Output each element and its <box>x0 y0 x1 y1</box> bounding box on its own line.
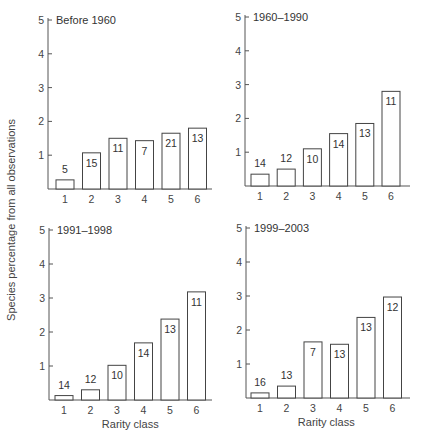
panel-title: 1960–1990 <box>253 11 308 23</box>
y-tick-label: 2 <box>236 324 242 336</box>
panel-title: Before 1960 <box>56 14 116 26</box>
x-tick-label: 5 <box>167 404 173 416</box>
x-tick-label: 2 <box>88 404 94 416</box>
bar <box>188 292 206 400</box>
x-tick-label: 1 <box>61 404 67 416</box>
x-tick-label: 1 <box>62 193 68 205</box>
bar <box>278 386 296 398</box>
x-tick-label: 6 <box>195 193 201 205</box>
x-tick-label: 2 <box>283 190 289 202</box>
y-tick-label: 5 <box>38 14 44 26</box>
x-tick-label: 3 <box>115 193 121 205</box>
x-tick-label: 4 <box>336 190 342 202</box>
bar-count-label: 14 <box>333 138 345 150</box>
bar <box>56 180 74 189</box>
x-tick-label: 5 <box>168 193 174 205</box>
y-tick-label: 1 <box>39 360 45 372</box>
bar-count-label: 12 <box>85 373 97 385</box>
y-tick-label: 2 <box>235 112 241 124</box>
x-axis-label: Rarity class <box>102 418 159 430</box>
x-tick-label: 2 <box>284 402 290 414</box>
y-tick-label: 4 <box>38 48 44 60</box>
x-tick-label: 3 <box>114 404 120 416</box>
x-axis-label: Rarity class <box>298 416 355 428</box>
panel-1: 12345Before 19605115211374215136 <box>38 14 212 205</box>
panel-title: 1991–1998 <box>57 224 112 236</box>
x-tick-label: 3 <box>309 190 315 202</box>
bar-count-label: 11 <box>113 142 124 154</box>
x-tick-label: 4 <box>142 193 148 205</box>
bar-count-label: 16 <box>254 376 266 388</box>
y-tick-label: 2 <box>39 326 45 338</box>
y-tick-label: 4 <box>39 258 45 270</box>
bar-count-label: 13 <box>334 348 346 360</box>
bar-count-label: 13 <box>164 323 176 335</box>
bar <box>251 174 269 186</box>
bar-count-label: 10 <box>307 153 319 165</box>
bar-count-label: 13 <box>360 321 372 333</box>
bar <box>55 396 73 400</box>
panel-4: 123451999–200316113273134135126Rarity cl… <box>236 222 410 428</box>
y-tick-label: 1 <box>235 146 241 158</box>
x-tick-label: 5 <box>362 190 368 202</box>
chart-grid: 12345Before 1960511521137421513612345196… <box>0 0 422 441</box>
bar-count-label: 12 <box>387 301 399 313</box>
x-tick-label: 2 <box>89 193 95 205</box>
bar <box>251 393 269 398</box>
bar-count-label: 21 <box>165 137 177 149</box>
x-tick-label: 4 <box>141 404 147 416</box>
y-tick-label: 5 <box>235 11 241 23</box>
x-tick-label: 5 <box>363 402 369 414</box>
bar-count-label: 5 <box>62 163 68 175</box>
bar-count-label: 14 <box>58 379 70 391</box>
y-tick-label: 5 <box>236 222 242 234</box>
x-tick-label: 6 <box>388 190 394 202</box>
bar-count-label: 13 <box>359 127 371 139</box>
y-tick-label: 3 <box>39 292 45 304</box>
y-tick-label: 2 <box>38 115 44 127</box>
y-tick-label: 3 <box>236 290 242 302</box>
panel-title: 1999–2003 <box>254 222 309 234</box>
bar-count-label: 11 <box>386 95 397 107</box>
bar-count-label: 14 <box>254 157 266 169</box>
bar-count-label: 13 <box>281 369 293 381</box>
y-tick-label: 3 <box>38 82 44 94</box>
panel-2: 123451960–1990141122103144135116 <box>235 11 410 202</box>
x-tick-label: 3 <box>310 402 316 414</box>
bar <box>277 169 295 186</box>
bar-count-label: 7 <box>142 145 148 157</box>
bar-count-label: 14 <box>138 347 150 359</box>
y-tick-label: 4 <box>235 45 241 57</box>
y-tick-label: 5 <box>39 224 45 236</box>
bar-count-label: 12 <box>280 152 292 164</box>
bar-count-label: 13 <box>192 132 204 144</box>
x-tick-label: 1 <box>257 402 263 414</box>
bar <box>82 390 100 400</box>
bar-count-label: 11 <box>191 296 202 308</box>
bar-count-label: 10 <box>111 369 123 381</box>
y-tick-label: 1 <box>236 358 242 370</box>
y-tick-label: 3 <box>235 79 241 91</box>
y-tick-label: 1 <box>38 149 44 161</box>
x-tick-label: 6 <box>194 404 200 416</box>
bar-count-label: 7 <box>310 346 316 358</box>
x-tick-label: 4 <box>337 402 343 414</box>
panel-3: 123451991–1998141122103144135116Rarity c… <box>39 224 212 430</box>
y-tick-label: 4 <box>236 256 242 268</box>
x-tick-label: 1 <box>257 190 263 202</box>
bar-count-label: 15 <box>86 157 98 169</box>
x-tick-label: 6 <box>390 402 396 414</box>
